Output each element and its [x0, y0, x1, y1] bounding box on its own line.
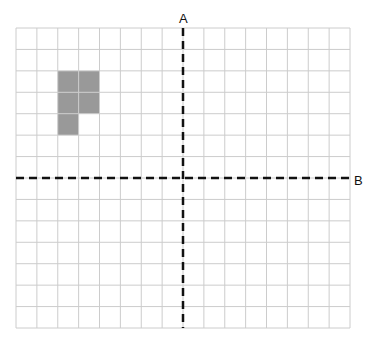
shaded-cell — [58, 92, 79, 113]
grid-canvas — [0, 0, 375, 346]
shaded-cell — [79, 71, 100, 92]
shaded-cell — [58, 114, 79, 135]
axis-a-label: A — [179, 12, 188, 25]
axis-b-label: B — [354, 174, 363, 187]
shaded-cell — [58, 71, 79, 92]
shaded-cell — [79, 92, 100, 113]
reflection-diagram: A B — [0, 0, 375, 346]
